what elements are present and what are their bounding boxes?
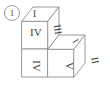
lower-right-cube-front-numeral: V [64, 62, 76, 70]
upper-cube-right-numeral: III [52, 24, 65, 36]
lower-left-cube-front-numeral: IV [31, 60, 43, 72]
figure-canvas: 1 I IV III I V II IV [0, 0, 110, 90]
upper-cube-front-numeral: IV [30, 26, 42, 38]
upper-cube-top-numeral: I [33, 8, 37, 19]
cube-diagram [0, 0, 110, 90]
